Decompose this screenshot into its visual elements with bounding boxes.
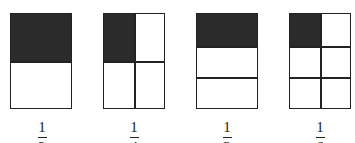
denominator: 4 xyxy=(119,140,149,143)
fraction-bar xyxy=(38,137,47,138)
fraction-label-sixth: 1 6 xyxy=(305,120,335,143)
divider-line xyxy=(11,61,71,63)
divider-line xyxy=(320,14,322,108)
shaded-region xyxy=(290,14,321,47)
divider-line xyxy=(197,77,257,79)
shaded-region xyxy=(11,14,71,62)
fraction-bar xyxy=(316,137,325,138)
shaded-region xyxy=(104,14,135,62)
numerator: 1 xyxy=(316,119,324,135)
fraction-bar xyxy=(223,137,232,138)
fraction-label-third: 1 3 xyxy=(212,120,242,143)
denominator: 6 xyxy=(305,140,335,143)
fraction-rect-quarter xyxy=(103,13,165,109)
fraction-rect-sixth xyxy=(289,13,351,109)
divider-line xyxy=(197,46,257,48)
fraction-bar xyxy=(130,137,139,138)
denominator: 2 xyxy=(27,140,57,143)
divider-line xyxy=(134,14,136,108)
numerator: 1 xyxy=(38,119,46,135)
shaded-region xyxy=(197,14,257,47)
fraction-rect-half xyxy=(10,13,72,109)
fraction-label-half: 1 2 xyxy=(27,120,57,143)
numerator: 1 xyxy=(130,119,138,135)
fraction-label-quarter: 1 4 xyxy=(119,120,149,143)
fraction-rect-third xyxy=(196,13,258,109)
numerator: 1 xyxy=(223,119,231,135)
denominator: 3 xyxy=(212,140,242,143)
